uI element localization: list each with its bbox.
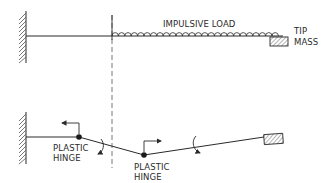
bottom-wall — [19, 112, 26, 164]
bottom-tip-mass — [264, 133, 284, 144]
top-wall — [19, 11, 26, 63]
mass-label: MASS — [294, 37, 318, 47]
hinge2-label-line1: PLASTIC — [134, 162, 170, 172]
impulsive-load-coils — [112, 33, 278, 36]
hinge1-travel-arrow-icon — [62, 123, 79, 134]
cantilever-beam-diagram: IMPULSIVE LOAD TIP MASS PLASTIC HINGE PL… — [0, 0, 325, 183]
plastic-hinge-2 — [141, 152, 147, 158]
top-tip-mass — [270, 37, 288, 46]
tip-label: TIP — [293, 26, 307, 36]
hinge1-label-line2: HINGE — [53, 153, 81, 163]
hinge2-label-line2: HINGE — [134, 172, 162, 182]
rotation-arrow-1-icon — [98, 139, 103, 154]
plastic-hinge-1 — [76, 134, 82, 140]
impulsive-load-label: IMPULSIVE LOAD — [163, 19, 236, 29]
rotation-arrow-2-icon — [193, 136, 200, 153]
hinge1-label-line1: PLASTIC — [53, 143, 89, 153]
hinge2-travel-arrow-icon — [144, 141, 161, 152]
